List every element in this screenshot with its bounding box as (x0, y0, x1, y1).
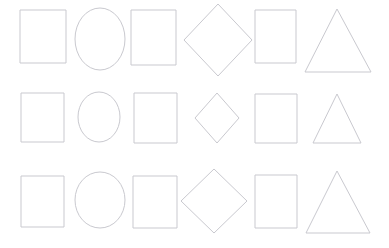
shape-row-3 (21, 169, 370, 233)
shape-row-1 (20, 4, 371, 76)
shape-triangle-r1c6[interactable] (305, 9, 371, 72)
shape-square-r1c1[interactable] (20, 10, 66, 63)
shape-ellipse-r2c2[interactable] (78, 92, 120, 142)
shape-canvas (0, 0, 389, 248)
shape-rectangle-r2c3[interactable] (134, 93, 177, 143)
shape-square-r3c1[interactable] (21, 176, 64, 227)
shape-ellipse-r1c2[interactable] (75, 8, 125, 70)
shape-diamond-r2c4[interactable] (195, 93, 239, 143)
shape-rectangle-r1c3[interactable] (131, 10, 176, 65)
shape-square-r2c5[interactable] (255, 94, 297, 143)
shape-rectangle-r3c3[interactable] (133, 176, 177, 228)
shape-grid (0, 0, 389, 248)
shape-square-r2c1[interactable] (21, 93, 64, 142)
shape-square-r1c5[interactable] (255, 10, 296, 63)
shape-square-r3c5[interactable] (255, 175, 297, 228)
shape-triangle-r2c6[interactable] (313, 94, 361, 143)
shape-diamond-r3c4[interactable] (181, 169, 247, 233)
shape-ellipse-r3c2[interactable] (75, 172, 125, 228)
shape-row-2 (21, 92, 361, 143)
shape-diamond-r1c4[interactable] (184, 4, 252, 76)
shape-triangle-r3c6[interactable] (306, 171, 370, 233)
